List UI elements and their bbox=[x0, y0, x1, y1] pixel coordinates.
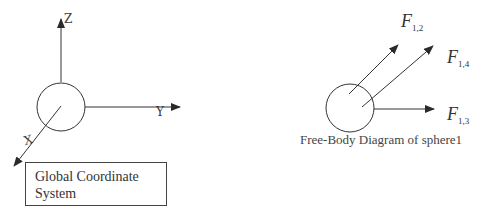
force-label-f14: F1,4 bbox=[447, 48, 469, 69]
box-line-1: Global Coordinate bbox=[35, 168, 157, 185]
sphere1 bbox=[326, 84, 374, 132]
global-sphere bbox=[37, 83, 85, 131]
z-axis-label: Z bbox=[64, 13, 72, 25]
global-coordinate-system-box: Global Coordinate System bbox=[25, 162, 167, 206]
box-line-2: System bbox=[35, 185, 157, 202]
force-arrow-f12 bbox=[349, 45, 398, 94]
x-axis-arrow bbox=[14, 106, 61, 166]
y-axis-label: Y bbox=[156, 106, 164, 118]
free-body-caption: Free-Body Diagram of sphere1 bbox=[300, 132, 462, 148]
force-label-f13: F1,3 bbox=[447, 105, 469, 126]
force-label-f12: F1,2 bbox=[401, 12, 423, 33]
force-arrow-f14 bbox=[362, 46, 433, 107]
